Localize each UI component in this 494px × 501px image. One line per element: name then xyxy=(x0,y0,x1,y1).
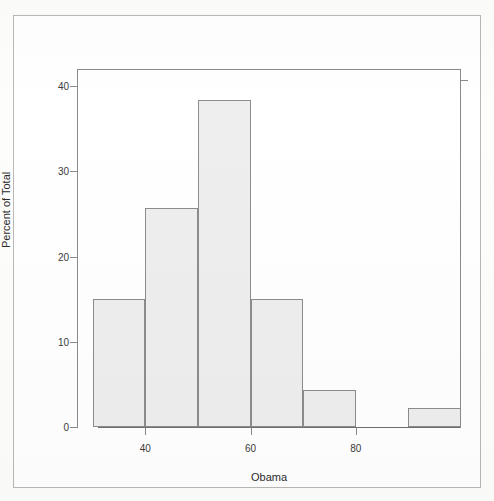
x-axis-tick-label: 60 xyxy=(245,443,256,454)
figure-frame: 010203040 406080 Percent of Total Obama xyxy=(13,15,481,488)
y-axis-tick xyxy=(70,86,77,87)
x-axis-title: Obama xyxy=(77,471,461,483)
y-axis-tick xyxy=(70,257,77,258)
histogram-bar xyxy=(145,208,198,427)
histogram-bar xyxy=(198,100,251,427)
y-axis-tick xyxy=(70,342,77,343)
y-axis-tick xyxy=(70,171,77,172)
plot-area: 010203040 406080 xyxy=(77,69,461,428)
x-axis-tick xyxy=(356,428,357,435)
x-axis-tick xyxy=(145,428,146,435)
y-axis-tick xyxy=(70,427,77,428)
chart-page: 010203040 406080 Percent of Total Obama xyxy=(0,0,494,501)
x-axis-tick-label: 40 xyxy=(140,443,151,454)
histogram-bars xyxy=(77,69,461,427)
y-axis-title: Percent of Total xyxy=(0,172,12,248)
right-axis-stub-tick xyxy=(461,80,468,81)
x-axis-tick xyxy=(251,428,252,435)
y-axis-tick-label: 10 xyxy=(43,336,69,347)
y-axis-tick-label: 40 xyxy=(43,81,69,92)
y-axis-tick-label: 20 xyxy=(43,251,69,262)
histogram-bar xyxy=(303,390,356,427)
x-axis-tick-label: 80 xyxy=(350,443,361,454)
histogram-bar xyxy=(408,408,461,427)
x-axis-line xyxy=(98,427,460,428)
histogram-bar xyxy=(251,299,304,427)
y-axis-tick-label: 0 xyxy=(43,422,69,433)
y-axis-tick-label: 30 xyxy=(43,166,69,177)
histogram-bar xyxy=(93,299,146,427)
